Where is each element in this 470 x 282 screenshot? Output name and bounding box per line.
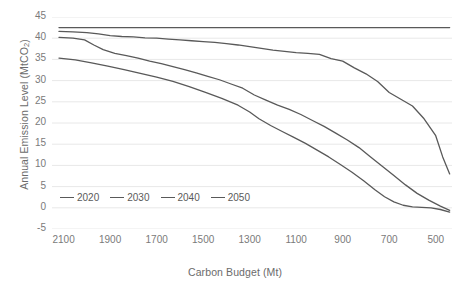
x-axis-tick: 500 <box>414 234 458 245</box>
legend-item-2040[interactable]: 2040 <box>161 192 200 203</box>
series-line-2050 <box>59 58 450 212</box>
y-axis-tick: 35 <box>16 52 46 63</box>
legend-line-swatch <box>161 197 175 198</box>
legend-label: 2030 <box>127 192 149 203</box>
series-line-2030 <box>59 31 450 173</box>
y-axis-tick: -5 <box>16 222 46 233</box>
legend-item-2030[interactable]: 2030 <box>110 192 149 203</box>
legend-line-swatch <box>110 197 124 198</box>
legend-line-swatch <box>60 197 74 198</box>
y-axis-tick: 10 <box>16 158 46 169</box>
legend-line-swatch <box>211 197 225 198</box>
y-axis-tick: 20 <box>16 116 46 127</box>
y-axis-tick: 40 <box>16 31 46 42</box>
y-axis-tick: 30 <box>16 74 46 85</box>
x-axis-tick: 1900 <box>88 234 132 245</box>
chart-legend: 2020203020402050 <box>60 192 250 203</box>
x-axis-tick: 1500 <box>181 234 225 245</box>
x-axis-title: Carbon Budget (Mt) <box>0 266 470 278</box>
legend-label: 2050 <box>228 192 250 203</box>
y-axis-tick: 5 <box>16 180 46 191</box>
y-axis-tick: 45 <box>16 10 46 21</box>
y-axis-tick: 15 <box>16 137 46 148</box>
emission-budget-line-chart: Annual Emission Level (MtCO2) Carbon Bud… <box>0 0 470 282</box>
series-line-2040 <box>59 37 450 210</box>
x-axis-tick: 700 <box>367 234 411 245</box>
legend-item-2050[interactable]: 2050 <box>211 192 250 203</box>
x-axis-tick: 2100 <box>42 234 86 245</box>
y-axis-tick: 25 <box>16 95 46 106</box>
legend-item-2020[interactable]: 2020 <box>60 192 99 203</box>
x-axis-tick: 1300 <box>228 234 272 245</box>
legend-label: 2040 <box>178 192 200 203</box>
y-axis-title-subscript: 2 <box>22 43 31 47</box>
x-axis-tick: 900 <box>321 234 365 245</box>
legend-label: 2020 <box>77 192 99 203</box>
x-axis-tick: 1700 <box>135 234 179 245</box>
x-axis-tick: 1100 <box>274 234 318 245</box>
y-axis-tick: 0 <box>16 201 46 212</box>
